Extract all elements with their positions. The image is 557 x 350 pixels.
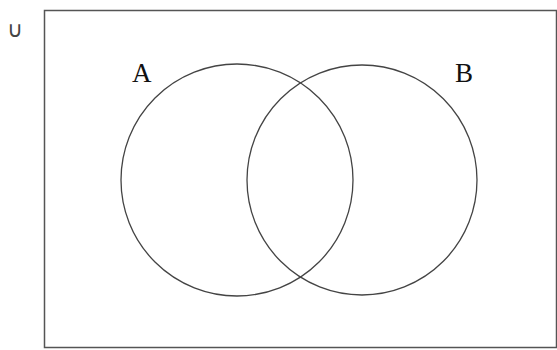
set-b-circle: [247, 65, 477, 295]
set-b-label: B: [455, 58, 473, 88]
set-a-circle: [121, 64, 353, 296]
set-a-label: A: [132, 58, 152, 88]
venn-diagram: A B: [0, 0, 557, 350]
